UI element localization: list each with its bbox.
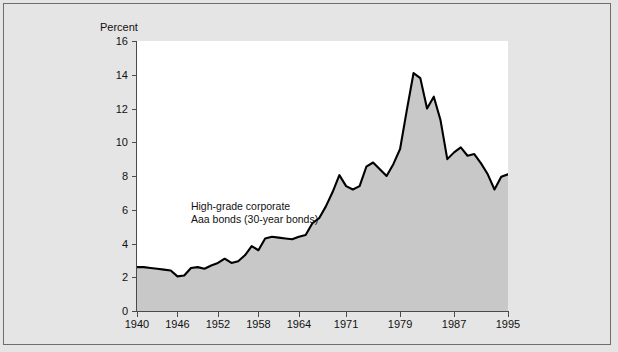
x-tick-mark bbox=[346, 312, 347, 317]
y-tick-label: 12 bbox=[100, 103, 128, 115]
y-tick-mark bbox=[132, 75, 137, 76]
x-tick-mark bbox=[218, 312, 219, 317]
plot-area bbox=[137, 41, 508, 311]
y-tick-label: 0 bbox=[100, 305, 128, 317]
y-tick-mark bbox=[132, 142, 137, 143]
x-tick-label: 1940 bbox=[117, 318, 157, 330]
series-area-fill bbox=[137, 73, 508, 311]
x-tick-mark bbox=[508, 312, 509, 317]
y-tick-mark bbox=[132, 277, 137, 278]
x-tick-label: 1987 bbox=[434, 318, 474, 330]
x-tick-label: 1958 bbox=[238, 318, 278, 330]
y-tick-mark bbox=[132, 109, 137, 110]
x-tick-mark bbox=[454, 312, 455, 317]
y-tick-label: 16 bbox=[100, 35, 128, 47]
area-series-svg bbox=[137, 41, 508, 311]
y-tick-mark bbox=[132, 244, 137, 245]
x-tick-mark bbox=[299, 312, 300, 317]
x-tick-label: 1964 bbox=[279, 318, 319, 330]
y-tick-label: 4 bbox=[100, 238, 128, 250]
x-tick-mark bbox=[137, 312, 138, 317]
series-annotation: High-grade corporate Aaa bonds (30-year … bbox=[191, 200, 318, 227]
y-tick-mark bbox=[132, 210, 137, 211]
x-tick-mark bbox=[258, 312, 259, 317]
annotation-line-1: High-grade corporate bbox=[191, 200, 318, 214]
y-axis-title: Percent bbox=[100, 21, 138, 33]
x-tick-mark bbox=[400, 312, 401, 317]
x-tick-label: 1952 bbox=[198, 318, 238, 330]
annotation-line-2: Aaa bonds (30-year bonds) bbox=[191, 213, 318, 227]
x-tick-label: 1971 bbox=[326, 318, 366, 330]
x-tick-label: 1995 bbox=[488, 318, 528, 330]
y-tick-label: 6 bbox=[100, 204, 128, 216]
x-tick-label: 1946 bbox=[157, 318, 197, 330]
y-tick-label: 8 bbox=[100, 170, 128, 182]
y-tick-label: 10 bbox=[100, 136, 128, 148]
y-tick-label: 14 bbox=[100, 69, 128, 81]
x-tick-mark bbox=[177, 312, 178, 317]
figure-canvas: Percent 0246810121416 194019461952195819… bbox=[0, 0, 618, 352]
y-tick-label: 2 bbox=[100, 271, 128, 283]
y-tick-mark bbox=[132, 41, 137, 42]
y-tick-mark bbox=[132, 176, 137, 177]
x-tick-label: 1979 bbox=[380, 318, 420, 330]
